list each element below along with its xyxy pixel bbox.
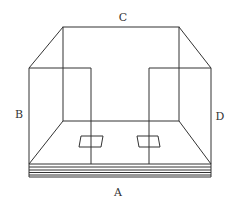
label-a: A: [113, 186, 123, 199]
box-diagram: C B D A: [0, 0, 236, 206]
right-panel: [149, 68, 211, 164]
edge-bottom-left: [29, 121, 63, 164]
label-b: B: [15, 108, 23, 121]
edge-bottom-right: [179, 121, 211, 164]
label-d: D: [216, 110, 225, 123]
edge-top-right: [179, 27, 211, 68]
back-wall: [63, 27, 179, 121]
edge-top-left: [29, 27, 63, 68]
label-c: C: [119, 11, 127, 24]
base-layers: [29, 164, 211, 177]
left-panel: [29, 68, 91, 164]
